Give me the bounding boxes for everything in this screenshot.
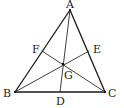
label-b: B [3, 87, 11, 100]
triangle-diagram: A B C D E F G [0, 0, 124, 108]
label-g: G [64, 69, 73, 82]
label-e: E [93, 43, 101, 56]
diagram-svg: A B C D E F G [0, 0, 124, 108]
label-a: A [65, 0, 75, 11]
label-c: C [108, 87, 116, 100]
point-b [14, 91, 16, 93]
point-c [104, 91, 106, 93]
label-f: F [32, 43, 40, 56]
label-d: D [56, 95, 65, 108]
point-g [62, 63, 65, 66]
